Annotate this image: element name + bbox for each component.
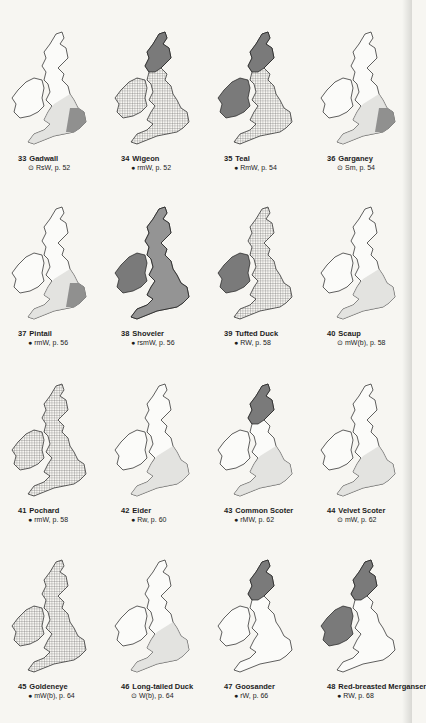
species-map-cell: 37Pintail ●rmW, p. 56 — [0, 175, 103, 355]
status-symbol-icon: ● — [28, 515, 32, 524]
distribution-map — [107, 28, 205, 152]
status-symbol-icon: ● — [234, 691, 238, 700]
species-caption: 45Goldeneye ●mW(b), p. 64 — [18, 682, 103, 700]
status-reference: rMW, p. 62 — [240, 516, 274, 523]
species-number: 36 — [327, 154, 335, 163]
species-name: Wigeon — [132, 154, 159, 163]
status-reference: mW(b), p. 58 — [345, 339, 385, 346]
distribution-map — [210, 380, 308, 504]
species-number: 45 — [18, 682, 26, 691]
species-number: 39 — [224, 329, 232, 338]
species-name: Common Scoter — [235, 506, 293, 515]
species-map-cell: 43Common Scoter ●rMW, p. 62 — [206, 352, 309, 532]
species-name: Gadwall — [29, 154, 58, 163]
species-caption: 42Eider ●Rw, p. 60 — [121, 506, 206, 524]
species-map-cell: 34Wigeon ●rmW, p. 52 — [103, 0, 206, 180]
distribution-map — [313, 203, 411, 327]
species-caption: 39Tufted Duck ●RW, p. 58 — [224, 329, 309, 347]
status-reference: rmW, p. 56 — [34, 339, 68, 346]
species-map-cell: 47Goosander ●rW, p. 66 — [206, 528, 309, 708]
distribution-map — [313, 556, 411, 680]
species-caption: 47Goosander ●rW, p. 66 — [224, 682, 309, 700]
distribution-map — [313, 380, 411, 504]
status-reference: rmW, p. 52 — [137, 164, 171, 171]
species-name: Eider — [132, 506, 151, 515]
status-symbol-icon: ⊙ — [337, 515, 343, 524]
distribution-map — [4, 556, 102, 680]
species-caption: 40Scaup ⊙mW(b), p. 58 — [327, 329, 412, 347]
status-reference: RW, p. 58 — [240, 339, 271, 346]
species-map-cell: 33Gadwall ⊙RsW, p. 52 — [0, 0, 103, 180]
species-map-cell: 35Teal ●RmW, p. 54 — [206, 0, 309, 180]
species-number: 33 — [18, 154, 26, 163]
species-map-cell: 38Shoveler ●rsmW, p. 56 — [103, 175, 206, 355]
distribution-map — [4, 203, 102, 327]
distribution-map — [107, 556, 205, 680]
species-name: Goosander — [235, 682, 275, 691]
status-symbol-icon: ● — [234, 515, 238, 524]
distribution-map — [210, 556, 308, 680]
species-name: Long-tailed Duck — [132, 682, 193, 691]
species-number: 44 — [327, 506, 335, 515]
species-caption: 35Teal ●RmW, p. 54 — [224, 154, 309, 172]
species-map-cell: 45Goldeneye ●mW(b), p. 64 — [0, 528, 103, 708]
species-name: Shoveler — [132, 329, 164, 338]
species-caption: 48Red-breasted Merganser ●RW, p. 68 — [327, 682, 412, 700]
species-name: Teal — [235, 154, 249, 163]
species-number: 41 — [18, 506, 26, 515]
species-number: 38 — [121, 329, 129, 338]
status-symbol-icon: ● — [131, 338, 135, 347]
status-symbol-icon: ● — [234, 338, 238, 347]
species-name: Red-breasted Merganser — [338, 682, 426, 691]
species-map-cell: 48Red-breasted Merganser ●RW, p. 68 — [309, 528, 412, 708]
distribution-map — [107, 380, 205, 504]
species-name: Goldeneye — [29, 682, 67, 691]
species-map-cell: 41Pochard ●rmW, p. 58 — [0, 352, 103, 532]
species-caption: 38Shoveler ●rsmW, p. 56 — [121, 329, 206, 347]
species-number: 43 — [224, 506, 232, 515]
species-number: 35 — [224, 154, 232, 163]
species-caption: 37Pintail ●rmW, p. 56 — [18, 329, 103, 347]
status-symbol-icon: ● — [234, 163, 238, 172]
species-caption: 41Pochard ●rmW, p. 58 — [18, 506, 103, 524]
status-reference: mW(b), p. 64 — [34, 692, 74, 699]
status-reference: rW, p. 66 — [240, 692, 268, 699]
status-reference: RW, p. 68 — [343, 692, 374, 699]
status-symbol-icon: ⊙ — [131, 691, 137, 700]
species-map-cell: 42Eider ●Rw, p. 60 — [103, 352, 206, 532]
status-reference: rmW, p. 58 — [34, 516, 68, 523]
species-number: 47 — [224, 682, 232, 691]
page-gutter-shadow — [402, 0, 412, 723]
species-caption: 46Long-tailed Duck ⊙W(b), p. 64 — [121, 682, 206, 700]
status-symbol-icon: ● — [28, 691, 32, 700]
distribution-map — [107, 203, 205, 327]
status-reference: W(b), p. 64 — [139, 692, 174, 699]
species-name: Garganey — [338, 154, 373, 163]
status-reference: Sm, p. 54 — [345, 164, 375, 171]
distribution-map — [210, 28, 308, 152]
distribution-map — [210, 203, 308, 327]
distribution-map — [4, 380, 102, 504]
species-number: 46 — [121, 682, 129, 691]
species-caption: 34Wigeon ●rmW, p. 52 — [121, 154, 206, 172]
species-caption: 33Gadwall ⊙RsW, p. 52 — [18, 154, 103, 172]
species-map-cell: 40Scaup ⊙mW(b), p. 58 — [309, 175, 412, 355]
status-symbol-icon: ⊙ — [28, 163, 34, 172]
status-reference: Rw, p. 60 — [137, 516, 166, 523]
status-symbol-icon: ● — [131, 515, 135, 524]
species-name: Pochard — [29, 506, 59, 515]
status-reference: RsW, p. 52 — [36, 164, 70, 171]
species-number: 37 — [18, 329, 26, 338]
status-symbol-icon: ● — [337, 691, 341, 700]
status-symbol-icon: ● — [131, 163, 135, 172]
species-name: Tufted Duck — [235, 329, 278, 338]
status-reference: rsmW, p. 56 — [137, 339, 174, 346]
species-name: Pintail — [29, 329, 52, 338]
species-number: 34 — [121, 154, 129, 163]
status-reference: RmW, p. 54 — [240, 164, 277, 171]
species-map-cell: 39Tufted Duck ●RW, p. 58 — [206, 175, 309, 355]
status-symbol-icon: ⊙ — [337, 338, 343, 347]
species-caption: 44Velvet Scoter ⊙mW, p. 62 — [327, 506, 412, 524]
status-symbol-icon: ● — [28, 338, 32, 347]
